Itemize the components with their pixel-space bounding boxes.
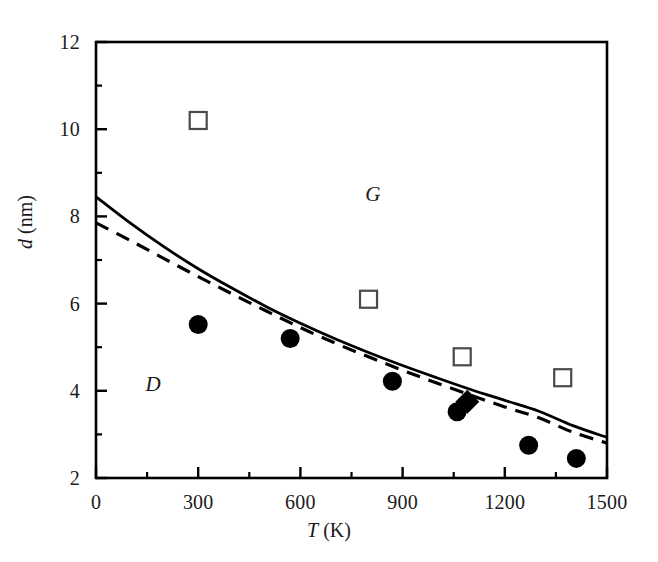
x-tick-label: 300 (158, 492, 238, 512)
region-label-g: G (365, 184, 380, 205)
curve-group (96, 197, 607, 443)
data-point-open-square (190, 112, 207, 129)
y-axis-title: d (nm) (14, 112, 40, 232)
data-point-filled-circle (519, 436, 538, 455)
data-point-open-square (360, 291, 377, 308)
data-point-open-square (454, 348, 471, 365)
plot-frame (96, 42, 607, 478)
y-tick-label: 6 (26, 294, 80, 314)
x-tick-label: 900 (363, 492, 443, 512)
y-tick-label: 4 (26, 381, 80, 401)
data-point-filled-circle (567, 449, 586, 468)
x-axis-title-variable: T (307, 519, 318, 541)
x-axis-title-unit: (K) (318, 519, 351, 541)
data-point-filled-circle (189, 315, 208, 334)
x-tick-label: 600 (260, 492, 340, 512)
x-axis-ticks (96, 467, 607, 478)
x-tick-label: 1200 (465, 492, 545, 512)
y-axis-title-variable: d (14, 239, 36, 249)
plot-canvas (0, 0, 658, 562)
figure-phase-diagram: 030060090012001500 24681012 GD d (nm) T … (0, 0, 658, 562)
data-point-filled-circle (383, 372, 402, 391)
dashed-curve (96, 223, 607, 443)
region-label-d: D (146, 374, 161, 395)
y-axis-title-unit: (nm) (14, 195, 36, 239)
y-tick-label: 2 (26, 468, 80, 488)
y-tick-label: 12 (26, 32, 80, 52)
x-tick-label: 1500 (567, 492, 647, 512)
y-axis-ticks (96, 42, 107, 478)
data-point-open-square (554, 369, 571, 386)
solid-curve (96, 197, 607, 438)
x-axis-title: T (K) (0, 520, 658, 540)
x-tick-label: 0 (56, 492, 136, 512)
data-point-filled-circle (281, 329, 300, 348)
